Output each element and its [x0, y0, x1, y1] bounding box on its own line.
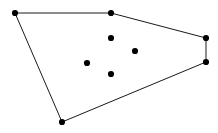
- convex-hull-figure: [0, 0, 218, 133]
- interior-point-f: [108, 35, 114, 41]
- figure-background: [0, 0, 218, 133]
- hull-vertex-e: [59, 119, 65, 125]
- figure-canvas: [0, 0, 218, 133]
- interior-point-i: [108, 71, 114, 77]
- interior-point-g: [132, 48, 138, 54]
- hull-vertex-c: [203, 35, 209, 41]
- interior-point-h: [84, 60, 90, 66]
- hull-vertex-a: [12, 10, 18, 16]
- hull-vertex-d: [203, 59, 209, 65]
- hull-vertex-b: [108, 10, 114, 16]
